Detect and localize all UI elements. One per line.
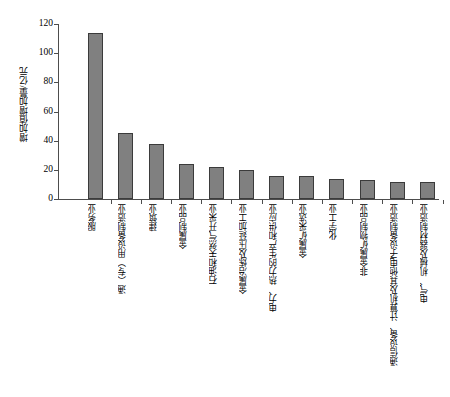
bar [149, 144, 164, 199]
y-axis-tick-label: 60 [44, 107, 54, 117]
bar [390, 182, 405, 200]
x-axis-tick-label: 非金属矿物制品业 [361, 204, 374, 276]
x-axis-tick-label: 通（专）用设备制造业 [119, 204, 132, 294]
bar [118, 133, 133, 199]
x-axis-tick-label: 金属制品业 [180, 204, 193, 249]
y-axis-tick-mark [54, 112, 58, 113]
x-axis-tick-label: 建筑业 [150, 204, 163, 231]
bar [269, 176, 284, 199]
y-axis-tick-label: 120 [39, 19, 53, 29]
y-axis-tick-labels: 020406080100120 [30, 18, 56, 206]
bar [360, 180, 375, 199]
bar-chart: 增加值增加量/亿元 020406080100120 服务业通（专）用设备制造业建… [0, 0, 450, 397]
bar [88, 33, 103, 199]
y-axis-tick-label: 20 [44, 165, 54, 175]
x-axis-tick-mark [443, 200, 444, 204]
y-axis-tick-label: 40 [44, 136, 54, 146]
bar [420, 182, 435, 200]
x-axis-tick-label: 服务业 [89, 204, 102, 231]
x-axis-tick-label: 通信设备、计算机及其他电子设备制造业 [391, 204, 404, 366]
y-axis-tick-mark [54, 141, 58, 142]
y-axis-tick-mark [54, 53, 58, 54]
bar [179, 164, 194, 199]
bar [239, 170, 254, 199]
y-axis-tick-mark [54, 24, 58, 25]
bar [299, 176, 314, 199]
bar [209, 167, 224, 199]
y-axis-tick-label: 0 [48, 194, 53, 204]
x-axis-tick-label: 石油和天然气开采业 [210, 204, 223, 285]
y-axis-tick-mark [54, 170, 58, 171]
x-axis-tick-label: 化学工业 [330, 204, 343, 240]
y-axis-tick-label: 100 [39, 48, 53, 58]
y-axis-tick-mark [54, 199, 58, 200]
x-axis-category-labels: 服务业通（专）用设备制造业建筑业金属制品业石油和天然气开采业金属冶炼及压延加工业… [58, 204, 438, 389]
x-axis-tick-label: 电力、热力的生产和供应业 [270, 204, 283, 312]
x-axis-tick-label: 金属矿采选业 [300, 204, 313, 258]
bar [329, 179, 344, 199]
y-axis-line [58, 24, 59, 200]
plot-area [58, 24, 438, 199]
x-axis-tick-label: 电气、机械及器材制造业 [421, 204, 434, 303]
x-axis-tick-label: 金属冶炼及压延加工业 [240, 204, 253, 294]
y-axis-tick-label: 80 [44, 77, 54, 87]
y-axis-tick-mark [54, 82, 58, 83]
